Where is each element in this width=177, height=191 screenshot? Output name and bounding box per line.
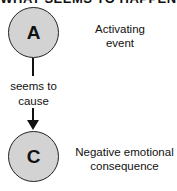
- node-c-circle: C: [8, 131, 59, 182]
- node-c-label-line2: consequence: [72, 159, 177, 173]
- edge-label: seems to cause: [0, 79, 67, 109]
- node-c-label-line1: Negative emotional: [72, 145, 177, 159]
- edge-label-line1: seems to: [0, 79, 67, 94]
- arrowhead-down-icon: [27, 120, 39, 130]
- node-c-label: Negative emotional consequence: [72, 145, 177, 173]
- node-c-letter: C: [27, 146, 41, 168]
- edge-label-line2: cause: [0, 94, 67, 109]
